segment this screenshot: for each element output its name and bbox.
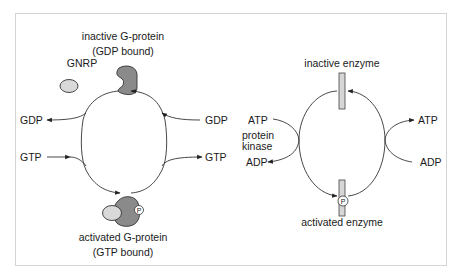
gdp-in-label: GDP xyxy=(205,114,228,126)
atp-in-label: ATP xyxy=(248,114,268,126)
atp-regeneration-arrow xyxy=(385,120,414,162)
gdp-out-label: GDP xyxy=(20,114,43,126)
gtp-out-label: GTP xyxy=(205,151,227,163)
enzyme-phosphate-label: P xyxy=(341,198,346,205)
gtp-in-label: GTP xyxy=(20,151,42,163)
inactive-g-protein-icon xyxy=(117,66,137,95)
gdp-out-arrow xyxy=(47,113,86,120)
adp-in-label: ADP xyxy=(420,156,442,168)
gnrp-label: GNRP xyxy=(67,57,97,69)
gdp-bound-label: (GDP bound) xyxy=(92,45,154,57)
gtp-out-arrow xyxy=(162,157,202,166)
activated-enzyme-label: activated enzyme xyxy=(301,216,383,228)
adp-out-label: ADP xyxy=(246,156,268,168)
gdp-in-arrow xyxy=(162,113,200,120)
protein-kinase-label-2: kinase xyxy=(242,140,273,152)
gnrp-icon xyxy=(60,80,78,93)
dephosphorylation-arrow xyxy=(348,91,385,140)
g-protein-cycle: inactive G-protein (GDP bound) GNRP GDP … xyxy=(20,30,228,258)
diagram-canvas: inactive G-protein (GDP bound) GNRP GDP … xyxy=(0,0,460,276)
phosphate-label: P xyxy=(137,207,142,214)
activation-arrow-top xyxy=(131,91,165,120)
activation-arrow-left xyxy=(81,120,120,193)
activated-g-protein-label: activated G-protein xyxy=(79,231,168,243)
inactive-enzyme-icon xyxy=(339,73,345,109)
atp-out-label: ATP xyxy=(418,114,438,126)
gtp-bound-label: (GTP bound) xyxy=(93,246,154,258)
phosphorylation-arrow xyxy=(299,140,337,196)
gnrp-bound-icon xyxy=(103,206,122,221)
inactive-g-protein-label: inactive G-protein xyxy=(82,30,164,42)
enzyme-cycle: inactive enzyme ATP protein kinase ADP A… xyxy=(242,57,442,228)
inactive-enzyme-label: inactive enzyme xyxy=(304,57,379,69)
